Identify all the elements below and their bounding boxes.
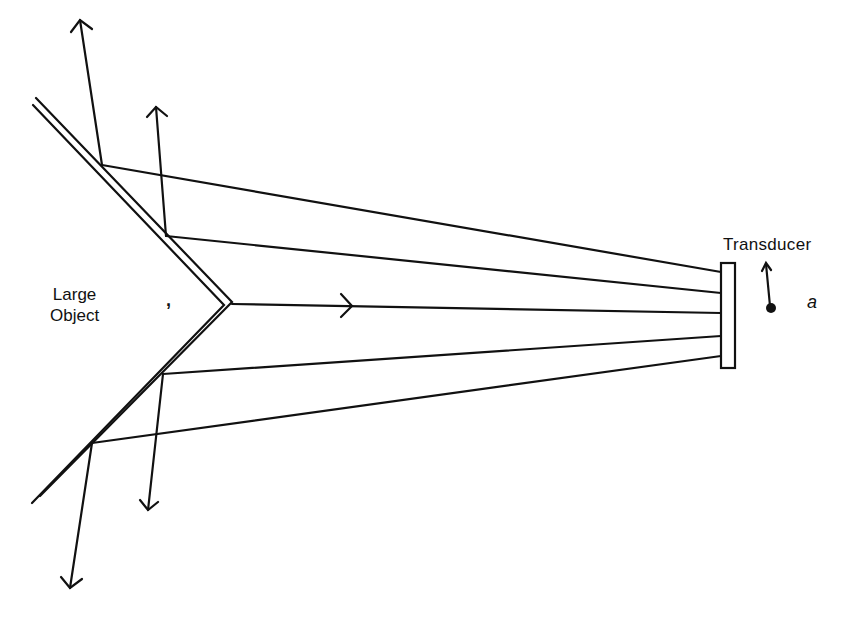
apex-mark: , [166, 290, 171, 311]
reflected-arrow-down-far [61, 443, 92, 588]
object-label: Large Object [50, 284, 99, 326]
diagram-canvas: Large Object , Transducer a [0, 0, 863, 624]
reflected-arrow-up-far [71, 20, 102, 165]
diagram-svg [0, 0, 863, 624]
transducer-label: Transducer [723, 234, 811, 255]
point-a-dot [766, 303, 776, 313]
object-label-line2: Object [50, 305, 99, 326]
object-label-line1: Large [50, 284, 99, 305]
reflected-arrow-down-near [140, 374, 163, 510]
point-a-arrow [762, 263, 771, 306]
incident-rays [92, 165, 721, 443]
point-a-label: a [807, 292, 817, 313]
transducer [721, 263, 735, 368]
